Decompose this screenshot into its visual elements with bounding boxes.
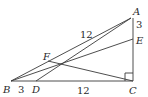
segment-fc bbox=[48, 61, 133, 81]
measure-ae: 3 bbox=[136, 19, 142, 30]
label-e: E bbox=[135, 35, 144, 46]
segment-ad bbox=[36, 18, 131, 81]
geometry-figure: A B C D E F 12 3 12 3 bbox=[0, 0, 148, 97]
measure-dc: 12 bbox=[77, 85, 90, 96]
segment-ab bbox=[11, 18, 131, 81]
measure-bd: 3 bbox=[18, 84, 24, 95]
label-d: D bbox=[31, 84, 40, 95]
measure-ab: 12 bbox=[80, 29, 93, 40]
label-f: F bbox=[42, 51, 51, 62]
label-b: B bbox=[2, 84, 10, 95]
label-a: A bbox=[132, 6, 140, 17]
segment-be bbox=[11, 39, 133, 81]
label-c: C bbox=[129, 85, 137, 96]
